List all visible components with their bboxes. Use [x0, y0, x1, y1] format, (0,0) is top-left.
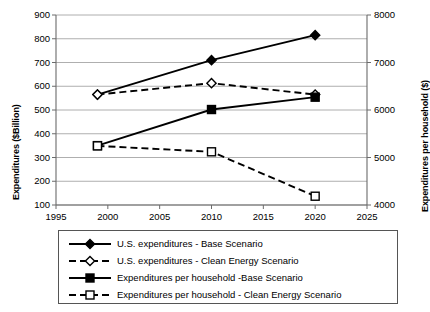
series-3: [93, 142, 319, 200]
legend-label: Expenditures per household -Base Scenari…: [117, 271, 303, 285]
legend-key-open-diamond-icon: [67, 254, 113, 268]
legend-item: U.S. expenditures - Clean Energy Scenari…: [67, 252, 397, 269]
data-series-layer: [93, 31, 320, 201]
legend-key-filled-diamond-icon: [67, 237, 113, 251]
legend-item: Expenditures per household -Base Scenari…: [67, 269, 397, 286]
series-0: [93, 31, 320, 100]
legend-item: U.S. expenditures - Base Scenario: [67, 235, 397, 252]
legend-label: Expenditures per household - Clean Energ…: [117, 288, 341, 302]
chart-legend: U.S. expenditures - Base ScenarioU.S. ex…: [58, 230, 398, 304]
legend-item: Expenditures per household - Clean Energ…: [67, 286, 397, 303]
series-1: [93, 79, 320, 100]
legend-label: U.S. expenditures - Base Scenario: [117, 237, 263, 251]
legend-key-filled-square-icon: [67, 271, 113, 285]
legend-key-open-square-icon: [67, 288, 113, 302]
series-2: [93, 93, 319, 149]
legend-label: U.S. expenditures - Clean Energy Scenari…: [117, 254, 299, 268]
